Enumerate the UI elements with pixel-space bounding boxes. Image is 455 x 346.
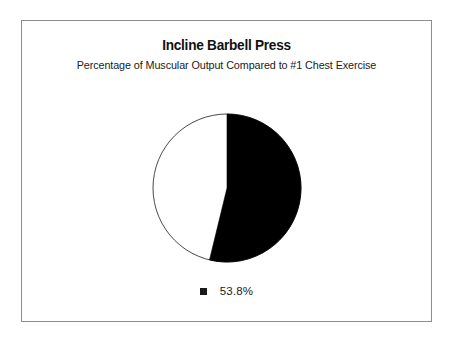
- chart-subtitle: Percentage of Muscular Output Compared t…: [36, 58, 416, 71]
- chart-screenshot: Incline Barbell Press Percentage of Musc…: [0, 0, 455, 346]
- chart-title: Incline Barbell Press: [47, 36, 407, 54]
- pie-chart-svg: [152, 113, 302, 263]
- legend-item[interactable]: 53.8%: [200, 285, 254, 297]
- legend: 53.8%: [22, 285, 431, 297]
- figure-frame: Incline Barbell Press Percentage of Musc…: [21, 20, 432, 322]
- legend-item-label: 53.8%: [220, 285, 254, 297]
- pie-chart: [152, 113, 302, 263]
- legend-swatch-icon: [200, 288, 207, 295]
